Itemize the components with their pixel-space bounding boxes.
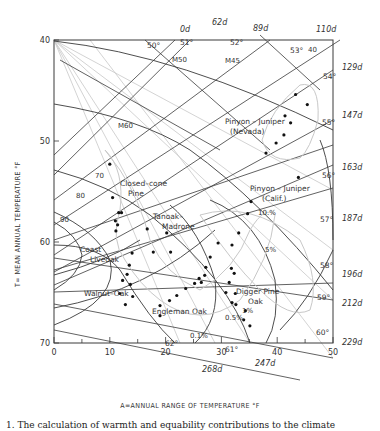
data-point xyxy=(116,223,119,226)
daylength-label: 147d xyxy=(342,111,363,120)
latitude-label: 58° xyxy=(320,261,334,270)
data-point xyxy=(114,229,117,232)
data-point xyxy=(117,211,120,214)
data-point xyxy=(200,281,203,284)
y-tick-label: 40 xyxy=(40,36,50,45)
data-point xyxy=(264,152,267,155)
y-axis-label: T= MEAN ANNUAL TEMPERATURE °F xyxy=(14,144,22,304)
latitude-label: 57° xyxy=(320,215,334,224)
latitude-label: 60° xyxy=(316,328,330,337)
latitude-label: 53° xyxy=(290,46,304,55)
chart-plot: 0102030405040506070Pinyon – Juniper(Neva… xyxy=(0,0,380,431)
data-point xyxy=(275,141,278,144)
region-label: Engleman Oak xyxy=(152,307,207,316)
contour-label: M60 xyxy=(118,122,133,130)
data-point xyxy=(129,283,132,286)
data-point xyxy=(121,279,124,282)
data-point xyxy=(131,252,134,255)
contour-label: 0.1% xyxy=(190,332,208,340)
region-label: Oak xyxy=(248,297,263,306)
region-label: Walnut–Oak xyxy=(84,289,129,298)
region-label: Pine xyxy=(128,189,144,198)
x-tick-label: 40 xyxy=(272,348,282,357)
data-point xyxy=(249,200,252,203)
contour-label: 1% xyxy=(242,307,253,315)
data-point xyxy=(169,251,172,254)
contour-label: 10.% xyxy=(258,209,276,217)
latitude-label: 52° xyxy=(230,38,244,47)
contour-label: 70 xyxy=(95,172,104,180)
data-point xyxy=(124,303,127,306)
data-point xyxy=(233,272,236,275)
contour-line xyxy=(260,35,320,90)
region-label: Liveoak xyxy=(90,255,119,264)
contour-label: 90 xyxy=(60,216,69,224)
daylength-label: 163d xyxy=(342,163,363,172)
region-label: Tanoak– xyxy=(152,212,183,221)
region-label: Closed–cone xyxy=(120,179,167,188)
x-tick-label: 10 xyxy=(105,348,115,357)
data-point xyxy=(230,301,233,304)
data-point xyxy=(184,287,187,290)
data-point xyxy=(120,211,123,214)
data-point xyxy=(217,241,220,244)
daylength-label: 0d xyxy=(180,25,191,34)
daylength-label: 268d xyxy=(202,365,223,374)
x-axis-label: A=ANNUAL RANGE OF TEMPERATURE °F xyxy=(0,402,380,410)
data-point xyxy=(165,231,168,234)
region-label: Pinyon – Juniper xyxy=(250,184,311,193)
y-tick-label: 60 xyxy=(40,238,50,247)
y-tick-label: 70 xyxy=(40,339,50,348)
data-point xyxy=(230,267,233,270)
x-tick-label: 20 xyxy=(161,348,171,357)
daylength-label: 229d xyxy=(342,338,363,347)
data-point xyxy=(198,277,201,280)
contour-label: 5% xyxy=(265,246,276,254)
latitude-label: 50° xyxy=(147,41,161,50)
data-point xyxy=(297,176,300,179)
warmth-contour xyxy=(54,212,111,325)
contour-label: M45 xyxy=(225,57,240,65)
region-label: Pinyon – Juniper xyxy=(225,117,286,126)
contour-label: 40 xyxy=(308,46,317,54)
latitude-label: 56° xyxy=(322,171,336,180)
data-point xyxy=(126,273,129,276)
contour-label: M50 xyxy=(172,56,187,64)
latitude-label: 51° xyxy=(180,38,194,47)
data-point xyxy=(131,295,134,298)
data-point xyxy=(146,227,149,230)
latitude-label: 62° xyxy=(165,339,179,348)
latitude-label: 54° xyxy=(323,72,337,81)
data-point xyxy=(224,291,227,294)
daylength-label: 247d xyxy=(255,359,276,368)
x-tick-label: 0 xyxy=(51,348,56,357)
region-label: Madrone xyxy=(162,222,195,231)
data-point xyxy=(246,212,249,215)
daylength-label: 212d xyxy=(342,299,363,308)
contour-label: 0.5% xyxy=(225,314,243,322)
data-point xyxy=(294,93,297,96)
region-label: Coast xyxy=(80,245,101,254)
daylength-label: 89d xyxy=(253,24,269,33)
data-point xyxy=(168,299,171,302)
data-point xyxy=(193,282,196,285)
daylength-label: 62d xyxy=(212,18,228,27)
data-point xyxy=(289,121,292,124)
daylength-label: 196d xyxy=(342,270,363,279)
data-point xyxy=(237,231,240,234)
x-tick-label: 50 xyxy=(328,348,338,357)
data-point xyxy=(204,266,207,269)
daylength-label: 129d xyxy=(342,63,363,72)
daylength-label: 110d xyxy=(316,25,337,34)
data-point xyxy=(248,324,251,327)
figure-caption: 1. The calculation of warmth and equabil… xyxy=(6,420,376,430)
region-label: (Nevada) xyxy=(230,127,265,136)
y-tick-label: 50 xyxy=(40,137,50,146)
warmth-contour xyxy=(54,230,215,308)
data-point xyxy=(152,251,155,254)
latitude-label: 59° xyxy=(317,293,331,302)
daylength-label: 187d xyxy=(342,214,363,223)
data-point xyxy=(203,274,206,277)
data-point xyxy=(306,103,309,106)
region-label: Digger Pine xyxy=(236,287,280,296)
